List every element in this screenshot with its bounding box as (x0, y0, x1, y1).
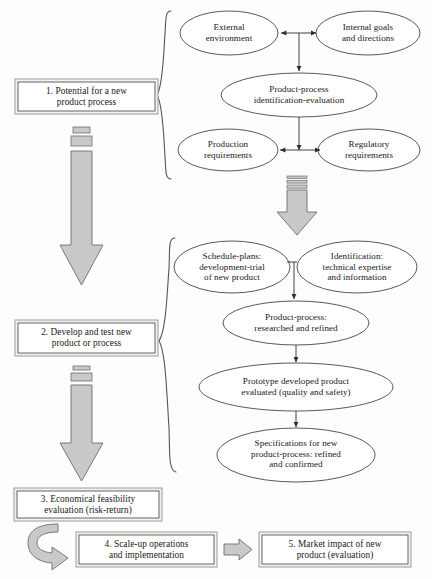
arrow-stage3-to-stage4 (28, 524, 68, 570)
node-regulatory-requirements (318, 129, 420, 171)
node-production-requirements (178, 129, 278, 171)
node-specifications-new (217, 428, 375, 482)
node-product-process-researched (223, 301, 369, 345)
stage-4-hit-area[interactable] (76, 532, 217, 567)
arrow-stage4-to-stage5 (224, 539, 252, 560)
stage-5-hit-area[interactable] (259, 532, 411, 567)
node-internal-goals (316, 11, 420, 55)
stage-2-hit-area[interactable] (15, 320, 158, 356)
arrow-stage2-to-stage3 (60, 366, 103, 481)
arrow-stage1-to-stage2 (60, 127, 103, 285)
node-schedule-plans (174, 241, 290, 293)
arrow-group1-to-group2 (277, 176, 317, 235)
node-product-process-identification (221, 73, 377, 117)
node-external-environment (180, 11, 278, 55)
node-prototype-developed (199, 363, 393, 411)
brace-group-two (159, 238, 176, 472)
flow-diagram: External environment Internal goals and … (0, 0, 432, 579)
stage-1-hit-area[interactable] (15, 79, 158, 114)
node-identification-expertise (297, 241, 417, 293)
stage-3-hit-area[interactable] (14, 488, 162, 521)
brace-group-one (157, 11, 171, 179)
